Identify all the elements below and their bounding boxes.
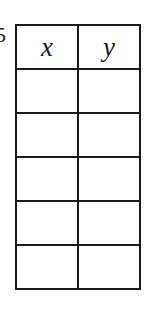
table-row [16,157,140,201]
cell-x[interactable] [16,113,78,157]
cell-y[interactable] [78,201,140,245]
table-row [16,69,140,113]
header-row: x y [16,25,140,69]
xy-value-table: x y [15,24,141,290]
cell-x[interactable] [16,157,78,201]
cell-y[interactable] [78,157,140,201]
table-row [16,113,140,157]
header-y: y [78,25,140,69]
header-x: x [16,25,78,69]
cell-x[interactable] [16,201,78,245]
cell-y[interactable] [78,69,140,113]
cell-x[interactable] [16,69,78,113]
cell-y[interactable] [78,245,140,289]
table-row [16,201,140,245]
cropped-label-fragment: 5 [0,24,6,46]
cell-x[interactable] [16,245,78,289]
table-row [16,245,140,289]
cell-y[interactable] [78,113,140,157]
